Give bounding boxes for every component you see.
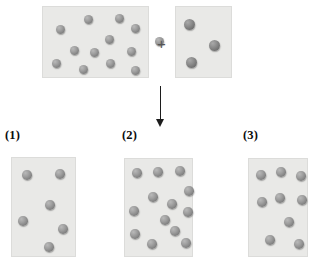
sphere [56,25,65,34]
sphere [209,40,220,51]
sphere [131,24,140,33]
sphere [55,169,65,179]
sphere [18,216,28,226]
sphere [296,171,306,181]
sphere [115,14,124,23]
sphere [148,192,158,202]
sphere [160,215,170,225]
sphere [45,200,55,210]
sphere [79,65,88,74]
sphere [132,168,142,178]
reactant-box-a [42,6,149,78]
sphere [184,19,195,30]
sphere [256,170,266,180]
figure-canvas: +(1)(2)(3) [0,0,315,263]
sphere [58,224,68,234]
answer-box-3 [248,158,308,257]
sphere [294,239,304,249]
answer-box-2 [124,158,193,257]
sphere [153,167,163,177]
sphere [186,57,197,68]
plus-operator-icon: + [157,36,166,51]
sphere [265,235,275,245]
sphere [52,59,61,68]
sphere [127,47,136,56]
sphere [90,48,99,57]
sphere [183,207,193,217]
sphere [70,46,79,55]
answer-box-1 [11,157,76,257]
sphere [130,229,140,239]
option-label-2: (2) [122,128,137,143]
option-label-1: (1) [5,128,20,143]
sphere [184,186,194,196]
sphere [129,206,139,216]
sphere [147,239,157,249]
sphere [275,193,285,203]
sphere [175,166,185,176]
sphere [131,66,140,75]
reaction-arrow-shaft [160,86,161,119]
sphere [284,217,294,227]
sphere [181,238,191,248]
reaction-arrow-head-icon [156,119,164,127]
sphere [44,242,54,252]
sphere [106,59,115,68]
sphere [170,226,180,236]
reactant-box-b [175,6,232,78]
sphere [276,167,286,177]
option-label-3: (3) [243,128,258,143]
sphere [257,197,267,207]
sphere [84,15,93,24]
sphere [22,170,32,180]
sphere [297,195,307,205]
sphere [167,199,177,209]
sphere [105,35,114,44]
